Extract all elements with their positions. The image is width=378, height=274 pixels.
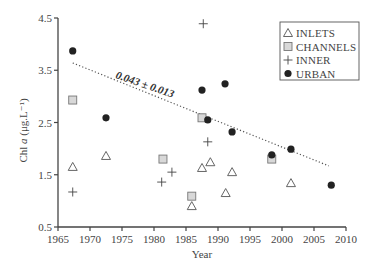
data-point-urban — [69, 47, 76, 54]
scatter-chart: 0.51.52.53.54.51965197019751980198519901… — [0, 0, 378, 274]
data-point-urban — [102, 114, 109, 121]
data-point-inner — [203, 137, 212, 146]
legend-symbol-channels — [284, 43, 292, 51]
y-tick-label: 3.5 — [38, 64, 52, 76]
y-tick-label: 4.5 — [38, 12, 52, 24]
legend-symbol-urban — [284, 70, 291, 77]
data-point-urban — [221, 80, 228, 87]
x-tick-label: 1965 — [47, 233, 70, 245]
data-point-inlets — [198, 163, 207, 171]
legend: INLETSCHANNELSINNERURBAN — [280, 22, 359, 80]
data-point-inlets — [286, 179, 295, 187]
x-tick-label: 1970 — [79, 233, 102, 245]
y-tick-label: 0.5 — [38, 221, 52, 233]
x-tick-label: 1980 — [143, 233, 166, 245]
y-tick-label: 2.5 — [38, 117, 52, 129]
series-inlets — [68, 151, 295, 209]
data-point-inner — [199, 19, 208, 28]
data-point-urban — [198, 87, 205, 94]
x-tick-label: 2005 — [303, 233, 326, 245]
x-tick-label: 1985 — [175, 233, 198, 245]
y-tick-label: 1.5 — [38, 169, 52, 181]
data-point-inlets — [206, 158, 215, 166]
x-tick-label: 1975 — [111, 233, 134, 245]
data-point-urban — [328, 182, 335, 189]
data-point-inner — [167, 168, 176, 177]
data-point-inner — [157, 178, 166, 187]
trend-annotation: 0.043 ± 0.013 — [114, 69, 176, 100]
data-point-urban — [287, 146, 294, 153]
x-tick-label: 1995 — [239, 233, 262, 245]
data-point-channels — [69, 96, 77, 104]
data-point-inner — [68, 187, 77, 196]
x-tick-label: 2010 — [335, 233, 358, 245]
data-point-inlets — [228, 168, 237, 176]
data-point-urban — [268, 151, 275, 158]
data-point-inlets — [68, 162, 77, 170]
data-point-urban — [228, 128, 235, 135]
x-axis-title: Year — [192, 248, 213, 260]
series-inner — [68, 19, 212, 196]
x-tick-label: 2000 — [271, 233, 294, 245]
data-point-inlets — [221, 189, 230, 197]
legend-label-urban: URBAN — [296, 68, 336, 80]
data-point-inlets — [102, 151, 111, 159]
y-axis-title: Chl a (μg.L⁻¹) — [17, 98, 30, 163]
legend-label-inlets: INLETS — [296, 27, 335, 39]
series-channels — [69, 96, 276, 200]
data-point-channels — [188, 192, 196, 200]
x-tick-label: 1990 — [207, 233, 230, 245]
legend-label-channels: CHANNELS — [296, 41, 356, 53]
data-point-channels — [159, 155, 167, 163]
legend-label-inner: INNER — [296, 54, 331, 66]
data-point-inlets — [187, 202, 196, 210]
data-point-urban — [204, 116, 211, 123]
